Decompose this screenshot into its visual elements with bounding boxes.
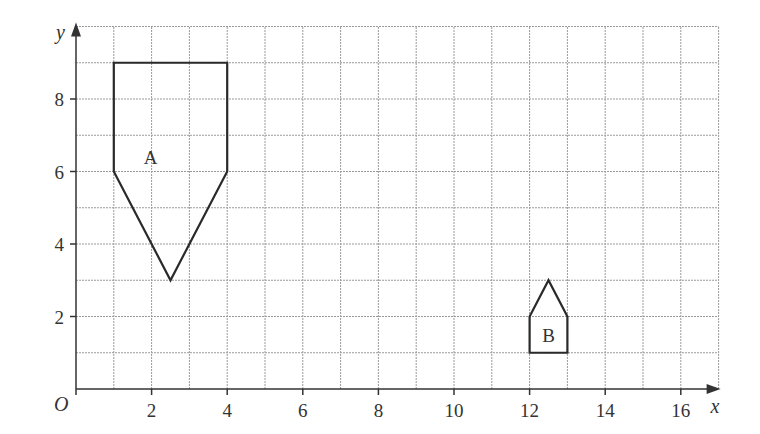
y-tick-label: 2 xyxy=(55,307,65,328)
x-tick-label: 8 xyxy=(374,400,384,421)
x-tick-label: 12 xyxy=(520,400,539,421)
x-tick-label: 4 xyxy=(222,400,232,421)
y-tick-label: 8 xyxy=(55,89,65,110)
x-axis-label: x xyxy=(710,395,720,417)
y-tick-label: 6 xyxy=(55,162,65,183)
coordinate-grid-diagram: 2468101214162468OxyAB xyxy=(0,0,760,434)
x-tick-label: 14 xyxy=(596,400,616,421)
origin-label: O xyxy=(54,393,68,415)
y-tick-label: 4 xyxy=(55,234,65,255)
shape-label-a: A xyxy=(144,147,158,168)
x-tick-label: 16 xyxy=(671,400,690,421)
y-axis-label: y xyxy=(54,21,65,44)
shape-label-b: B xyxy=(542,325,555,346)
x-tick-label: 10 xyxy=(445,400,464,421)
y-axis-arrow-icon xyxy=(71,23,81,37)
x-tick-label: 6 xyxy=(298,400,308,421)
x-tick-label: 2 xyxy=(147,400,157,421)
